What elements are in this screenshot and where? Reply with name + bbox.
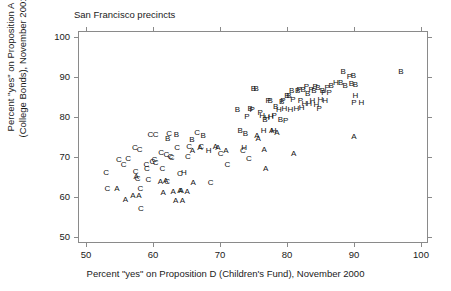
data-point-A: A bbox=[114, 185, 119, 193]
data-point-C: C bbox=[105, 185, 111, 193]
data-point-A: A bbox=[191, 179, 196, 187]
data-point-C: C bbox=[208, 179, 214, 187]
data-point-C: C bbox=[153, 159, 159, 167]
y-axis-tick bbox=[428, 117, 432, 118]
data-point-B: B bbox=[243, 130, 248, 138]
data-point-B: B bbox=[343, 82, 348, 90]
y-axis-tick-label: 100 bbox=[46, 31, 70, 42]
y-axis-tick-label: 50 bbox=[46, 231, 70, 242]
data-point-P: P bbox=[249, 106, 254, 114]
scatter-plot-area: CCACCCAACCACACCCCCCCCCCCACCACCABCCCAABCA… bbox=[78, 31, 428, 243]
y-axis-label: Percent "yes" on Proposition A (College … bbox=[5, 0, 35, 173]
x-axis-tick-label: 100 bbox=[406, 249, 436, 260]
y-axis-tick bbox=[428, 37, 432, 38]
data-point-B: B bbox=[235, 106, 240, 114]
data-point-C: C bbox=[169, 154, 175, 162]
data-point-H: H bbox=[206, 147, 212, 155]
data-point-H: H bbox=[281, 105, 287, 113]
data-point-P: P bbox=[283, 117, 288, 125]
data-point-A: A bbox=[184, 188, 189, 196]
data-point-C: C bbox=[194, 129, 200, 137]
x-axis-tick-label: 50 bbox=[71, 249, 101, 260]
y-axis-label-line2: (College Bonds), November 2001 bbox=[17, 0, 29, 173]
data-point-B: B bbox=[254, 85, 259, 93]
x-axis-tick-label: 70 bbox=[205, 249, 235, 260]
data-point-A: A bbox=[262, 146, 267, 154]
y-axis-tick-label: 60 bbox=[46, 191, 70, 202]
data-point-A: A bbox=[130, 192, 135, 200]
data-point-B: B bbox=[289, 87, 294, 95]
data-point-A: A bbox=[351, 133, 356, 141]
x-axis-tick-label: 80 bbox=[272, 249, 302, 260]
x-axis-tick bbox=[287, 243, 288, 247]
data-point-A: A bbox=[256, 135, 261, 143]
data-point-P: P bbox=[290, 96, 295, 104]
data-point-B: B bbox=[341, 68, 346, 76]
x-axis-tick-label: 60 bbox=[138, 249, 168, 260]
data-point-H: H bbox=[181, 169, 187, 177]
data-point-C: C bbox=[144, 165, 150, 173]
data-point-B: B bbox=[353, 81, 358, 89]
data-point-C: C bbox=[246, 155, 252, 163]
data-point-A: A bbox=[274, 129, 279, 137]
data-point-C: C bbox=[174, 144, 180, 152]
data-point-A: A bbox=[173, 197, 178, 205]
y-axis-label-line1: Percent "yes" on Proposition A bbox=[5, 0, 17, 173]
data-point-C: C bbox=[166, 130, 172, 138]
y-axis-tick bbox=[428, 197, 432, 198]
x-axis-tick bbox=[153, 243, 154, 247]
data-point-C: C bbox=[198, 143, 204, 151]
data-point-P: P bbox=[316, 105, 321, 113]
data-point-C: C bbox=[135, 175, 141, 183]
x-axis-tick bbox=[86, 243, 87, 247]
data-point-A: A bbox=[190, 147, 195, 155]
data-point-C: C bbox=[103, 169, 109, 177]
page-title: San Francisco precincts bbox=[74, 9, 175, 20]
data-point-A: A bbox=[291, 150, 296, 158]
chart-figure: San Francisco precincts 5060708090100506… bbox=[0, 0, 451, 291]
x-axis-tick bbox=[220, 243, 221, 247]
data-point-H: H bbox=[358, 99, 364, 107]
data-point-C: C bbox=[153, 131, 159, 139]
data-point-B: B bbox=[201, 132, 206, 140]
y-axis-tick bbox=[428, 157, 432, 158]
x-axis-tick bbox=[421, 243, 422, 247]
y-axis-tick-label: 90 bbox=[46, 71, 70, 82]
data-point-H: H bbox=[322, 97, 328, 105]
y-axis-tick-label: 70 bbox=[46, 151, 70, 162]
x-axis-tick bbox=[354, 243, 355, 247]
data-point-H: H bbox=[241, 144, 247, 152]
data-point-P: P bbox=[244, 113, 249, 121]
data-point-A: A bbox=[160, 189, 165, 197]
data-point-A: A bbox=[178, 187, 183, 195]
data-point-C: C bbox=[224, 161, 230, 169]
data-point-C: C bbox=[125, 155, 131, 163]
data-point-C: C bbox=[159, 165, 165, 173]
data-point-A: A bbox=[180, 197, 185, 205]
data-point-B: B bbox=[398, 68, 403, 76]
data-point-A: A bbox=[170, 188, 175, 196]
y-axis-tick-label: 80 bbox=[46, 111, 70, 122]
y-axis-tick bbox=[428, 237, 432, 238]
data-point-A: A bbox=[223, 147, 228, 155]
data-point-A: A bbox=[163, 177, 168, 185]
data-point-P: P bbox=[351, 99, 356, 107]
data-point-A: A bbox=[263, 165, 268, 173]
x-axis-tick-label: 90 bbox=[339, 249, 369, 260]
data-point-C: C bbox=[138, 205, 144, 213]
data-point-H: H bbox=[287, 106, 293, 114]
y-axis-tick bbox=[428, 77, 432, 78]
data-point-H: H bbox=[261, 127, 267, 135]
x-axis-label: Percent "yes" on Proposition D (Children… bbox=[0, 268, 451, 279]
data-point-A: A bbox=[123, 196, 128, 204]
data-point-C: C bbox=[145, 176, 151, 184]
data-point-B: B bbox=[174, 131, 179, 139]
data-point-C: C bbox=[137, 146, 143, 154]
data-point-C: C bbox=[137, 185, 143, 193]
